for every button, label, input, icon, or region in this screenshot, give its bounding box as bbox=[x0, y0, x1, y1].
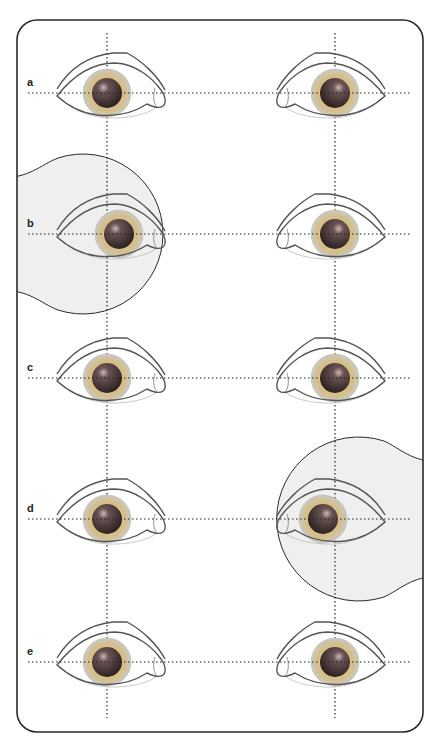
right-eye-e bbox=[277, 622, 385, 687]
left-eye-e bbox=[57, 622, 165, 687]
figure-frame bbox=[17, 20, 423, 732]
row-label-d: d bbox=[27, 502, 34, 514]
right-eye-a bbox=[277, 53, 385, 118]
left-eye-a bbox=[57, 53, 165, 118]
left-eye-d bbox=[57, 479, 165, 544]
row-label-a: a bbox=[27, 76, 33, 88]
right-eye-c bbox=[277, 338, 385, 403]
eye-position-diagram bbox=[0, 0, 441, 750]
row-label-b: b bbox=[27, 217, 34, 229]
row-label-e: e bbox=[27, 645, 33, 657]
left-eye-c bbox=[57, 338, 165, 403]
row-label-c: c bbox=[27, 361, 33, 373]
right-eye-b bbox=[277, 194, 385, 259]
